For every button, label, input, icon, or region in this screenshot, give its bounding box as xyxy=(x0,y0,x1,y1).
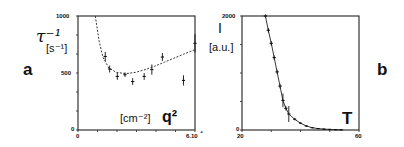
chart-b-ytick-0: 0 xyxy=(236,126,239,132)
chart-b-ylabel: I xyxy=(218,20,222,36)
chart-a-xtick-0: 0 xyxy=(76,133,79,139)
chart-a-xunit: [cm⁻²] xyxy=(120,112,150,125)
chart-a-xtick-exponent: ⁴ xyxy=(200,130,203,136)
chart-b-yunit: [a.u.] xyxy=(209,41,233,53)
chart-a-curve xyxy=(95,16,195,74)
chart-a-xtick-max: 6.10 xyxy=(186,133,198,139)
chart-a-ytick-500: 500 xyxy=(61,70,71,76)
chart-a-ytick-0: 0 xyxy=(71,126,74,132)
panel-label-a: a xyxy=(23,60,32,80)
chart-a-xlabel: q² xyxy=(162,108,177,126)
chart-a-yunit: [s⁻¹] xyxy=(46,42,67,55)
chart-a-ytick-1000: 1000 xyxy=(56,13,69,19)
chart-b-xtick-20: 20 xyxy=(237,133,244,139)
panel-label-b: b xyxy=(377,60,387,80)
chart-b-ytick-2000: 2000 xyxy=(222,13,235,19)
chart-b-xtick-60: 60 xyxy=(355,133,362,139)
chart-b-xlabel: T xyxy=(342,109,352,129)
